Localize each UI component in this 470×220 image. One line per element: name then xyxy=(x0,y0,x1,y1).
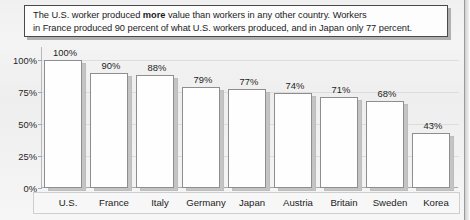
y-tick-0% xyxy=(38,188,42,189)
x-axis-label-austria: Austria xyxy=(272,197,324,208)
bar[interactable] xyxy=(366,101,404,188)
x-axis-label-korea: Korea xyxy=(410,197,462,208)
caption-emphasis-more: more xyxy=(143,10,166,20)
caption-line-1-post: value than workers in any other country.… xyxy=(165,10,366,20)
x-axis-label-sweden: Sweden xyxy=(364,197,416,208)
bar-group-austria[interactable]: 74% xyxy=(274,47,318,188)
caption-box: The U.S. worker produced more value than… xyxy=(24,5,448,37)
bar-group-us[interactable]: 100% xyxy=(44,47,88,188)
productivity-bar-chart: The U.S. worker produced more value than… xyxy=(0,0,470,220)
bar[interactable] xyxy=(44,60,82,188)
bar-value-label: 79% xyxy=(182,74,224,85)
y-axis-label-0%: 0% xyxy=(1,183,37,194)
bar-value-label: 100% xyxy=(44,47,86,58)
bar-value-label: 43% xyxy=(412,120,454,131)
y-axis-label-50%: 50% xyxy=(1,118,37,129)
bar-value-label: 71% xyxy=(320,84,362,95)
bar-group-korea[interactable]: 43% xyxy=(412,47,456,188)
x-axis-label-britain: Britain xyxy=(318,197,370,208)
bar-value-label: 90% xyxy=(90,60,132,71)
page-edge xyxy=(465,0,470,220)
bar-value-label: 74% xyxy=(274,80,316,91)
y-axis-label-25%: 25% xyxy=(1,150,37,161)
y-axis-label-100%: 100% xyxy=(1,54,37,65)
bar-group-italy[interactable]: 88% xyxy=(136,47,180,188)
bar[interactable] xyxy=(412,133,450,188)
bar-value-label: 88% xyxy=(136,62,178,73)
bar[interactable] xyxy=(228,89,266,188)
y-axis-labels: 0%25%50%75%100% xyxy=(0,47,37,188)
caption-line-1-pre: The U.S. worker produced xyxy=(33,10,143,20)
caption-line-2: in France produced 90 percent of what U.… xyxy=(33,22,440,35)
bar-group-sweden[interactable]: 68% xyxy=(366,47,410,188)
caption-line-1: The U.S. worker produced more value than… xyxy=(33,9,440,22)
bar[interactable] xyxy=(320,97,358,188)
x-axis-label-strip: U.S.FranceItalyGermanyJapanAustriaBritai… xyxy=(33,192,460,214)
bar-group-japan[interactable]: 77% xyxy=(228,47,272,188)
bar-group-germany[interactable]: 79% xyxy=(182,47,226,188)
y-axis-label-75%: 75% xyxy=(1,86,37,97)
bar-value-label: 68% xyxy=(366,88,408,99)
bar-group-britain[interactable]: 71% xyxy=(320,47,364,188)
bar[interactable] xyxy=(182,87,220,188)
x-axis-label-japan: Japan xyxy=(226,197,278,208)
bar-group-france[interactable]: 90% xyxy=(90,47,134,188)
bars-layer: 100%90%88%79%77%74%71%68%43% xyxy=(41,47,458,188)
bar[interactable] xyxy=(136,75,174,188)
bar[interactable] xyxy=(274,93,312,188)
x-axis-label-france: France xyxy=(88,197,140,208)
x-axis-label-germany: Germany xyxy=(180,197,232,208)
x-axis-label-italy: Italy xyxy=(134,197,186,208)
bar[interactable] xyxy=(90,73,128,188)
x-axis-label-us: U.S. xyxy=(42,197,94,208)
bar-value-label: 77% xyxy=(228,76,270,87)
